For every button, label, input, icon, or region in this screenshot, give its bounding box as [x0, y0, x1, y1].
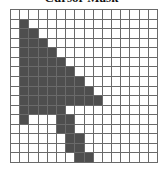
- mask-cell-filled: [29, 48, 38, 58]
- mask-cell-empty: [103, 20, 112, 30]
- mask-cell-empty: [121, 96, 130, 106]
- mask-cell-empty: [66, 106, 75, 116]
- mask-cell-filled: [85, 96, 94, 106]
- mask-cell-filled: [48, 77, 57, 87]
- mask-cell-filled: [48, 96, 57, 106]
- mask-cell-filled: [20, 96, 29, 106]
- mask-cell-empty: [20, 144, 29, 154]
- mask-cell-empty: [140, 20, 149, 30]
- mask-cell-empty: [85, 58, 94, 68]
- mask-cell-empty: [112, 134, 121, 144]
- mask-cell-empty: [112, 39, 121, 49]
- mask-cell-filled: [39, 87, 48, 97]
- mask-cell-empty: [130, 134, 139, 144]
- mask-cell-empty: [103, 96, 112, 106]
- mask-cell-empty: [121, 48, 130, 58]
- mask-cell-empty: [121, 10, 130, 20]
- mask-cell-empty: [57, 10, 66, 20]
- mask-cell-empty: [130, 96, 139, 106]
- mask-cell-empty: [94, 153, 103, 163]
- mask-cell-filled: [66, 134, 75, 144]
- mask-cell-empty: [130, 153, 139, 163]
- mask-cell-empty: [94, 106, 103, 116]
- mask-cell-empty: [66, 39, 75, 49]
- mask-cell-empty: [75, 125, 84, 135]
- mask-cell-empty: [149, 67, 158, 77]
- mask-cell-filled: [29, 39, 38, 49]
- mask-cell-filled: [20, 106, 29, 116]
- mask-cell-empty: [112, 20, 121, 30]
- mask-cell-empty: [112, 77, 121, 87]
- mask-cell-filled: [66, 96, 75, 106]
- mask-cell-filled: [20, 20, 29, 30]
- mask-cell-empty: [112, 67, 121, 77]
- mask-cell-empty: [29, 10, 38, 20]
- mask-cell-empty: [11, 58, 20, 68]
- mask-cell-empty: [85, 134, 94, 144]
- mask-cell-filled: [66, 125, 75, 135]
- mask-cell-empty: [121, 115, 130, 125]
- mask-cell-filled: [57, 96, 66, 106]
- mask-cell-empty: [130, 20, 139, 30]
- mask-cell-empty: [149, 96, 158, 106]
- mask-cell-empty: [140, 10, 149, 20]
- mask-cell-filled: [29, 77, 38, 87]
- mask-cell-filled: [29, 106, 38, 116]
- mask-cell-empty: [66, 48, 75, 58]
- mask-cell-filled: [57, 67, 66, 77]
- mask-cell-empty: [149, 134, 158, 144]
- mask-cell-empty: [20, 10, 29, 20]
- mask-cell-empty: [11, 153, 20, 163]
- mask-cell-filled: [57, 115, 66, 125]
- mask-cell-empty: [121, 29, 130, 39]
- mask-cell-empty: [94, 48, 103, 58]
- mask-cell-empty: [57, 153, 66, 163]
- mask-cell-filled: [20, 29, 29, 39]
- mask-cell-empty: [130, 58, 139, 68]
- mask-cell-empty: [103, 115, 112, 125]
- mask-cell-empty: [29, 125, 38, 135]
- mask-cell-empty: [11, 48, 20, 58]
- mask-cell-empty: [66, 10, 75, 20]
- mask-cell-empty: [94, 29, 103, 39]
- mask-cell-empty: [112, 106, 121, 116]
- mask-cell-empty: [11, 96, 20, 106]
- cursor-mask-grid: [10, 9, 158, 163]
- mask-cell-filled: [66, 77, 75, 87]
- mask-cell-empty: [94, 10, 103, 20]
- mask-cell-empty: [48, 125, 57, 135]
- mask-cell-filled: [66, 144, 75, 154]
- mask-cell-empty: [57, 144, 66, 154]
- mask-cell-empty: [140, 106, 149, 116]
- mask-cell-filled: [75, 96, 84, 106]
- mask-cell-empty: [11, 10, 20, 20]
- mask-cell-empty: [29, 134, 38, 144]
- mask-cell-empty: [140, 77, 149, 87]
- mask-cell-empty: [149, 10, 158, 20]
- mask-cell-filled: [75, 87, 84, 97]
- mask-cell-empty: [103, 87, 112, 97]
- mask-cell-empty: [66, 153, 75, 163]
- mask-cell-empty: [85, 115, 94, 125]
- mask-cell-filled: [20, 87, 29, 97]
- mask-cell-filled: [48, 67, 57, 77]
- mask-cell-empty: [39, 10, 48, 20]
- mask-cell-empty: [112, 48, 121, 58]
- mask-cell-empty: [94, 87, 103, 97]
- mask-cell-empty: [112, 29, 121, 39]
- mask-cell-empty: [11, 29, 20, 39]
- mask-cell-empty: [149, 39, 158, 49]
- mask-cell-filled: [39, 58, 48, 68]
- mask-cell-filled: [57, 58, 66, 68]
- mask-cell-empty: [112, 153, 121, 163]
- mask-cell-empty: [149, 20, 158, 30]
- mask-cell-empty: [121, 39, 130, 49]
- mask-cell-filled: [48, 87, 57, 97]
- mask-cell-filled: [20, 48, 29, 58]
- mask-cell-empty: [103, 77, 112, 87]
- mask-cell-empty: [149, 48, 158, 58]
- mask-cell-empty: [85, 125, 94, 135]
- mask-cell-filled: [94, 96, 103, 106]
- mask-cell-empty: [20, 153, 29, 163]
- mask-cell-empty: [121, 106, 130, 116]
